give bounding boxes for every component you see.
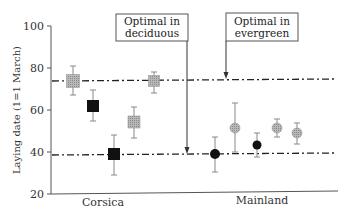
reference-line-evergreen <box>52 79 334 81</box>
series-mainland <box>210 103 302 172</box>
chart-canvas: 100 80 60 40 20 Laying date (1=1 March) … <box>0 0 348 220</box>
data-point-corsica-5 <box>149 72 160 93</box>
arrowhead-deciduous-icon <box>185 147 190 154</box>
y-axis: 100 80 60 40 20 Laying date (1=1 March) <box>11 20 51 201</box>
x-axis: Corsica Mainland <box>51 191 338 209</box>
y-tick-label-60: 60 <box>30 104 44 117</box>
series-corsica <box>67 66 160 175</box>
y-tick-label-40: 40 <box>30 146 44 159</box>
annotation-deciduous-line1: Optimal in <box>124 15 180 27</box>
reference-line-deciduous <box>52 153 334 155</box>
data-point-corsica-1 <box>67 66 80 95</box>
annotation-deciduous-line2: deciduous <box>125 27 179 39</box>
data-point-mainland-4 <box>272 119 282 137</box>
annotation-evergreen-line1: Optimal in <box>234 15 290 27</box>
y-axis-title: Laying date (1=1 March) <box>11 46 22 174</box>
data-point-mainland-5 <box>292 123 302 144</box>
y-tick-label-100: 100 <box>23 20 44 33</box>
y-tick-label-80: 80 <box>30 62 44 75</box>
annotation-evergreen-line2: evergreen <box>235 27 290 39</box>
data-point-corsica-3 <box>108 135 120 175</box>
data-point-corsica-4 <box>128 107 140 138</box>
data-point-mainland-1 <box>210 137 220 172</box>
y-tick-label-20: 20 <box>30 188 44 201</box>
x-category-mainland: Mainland <box>236 194 289 207</box>
data-point-mainland-2 <box>230 103 240 152</box>
arrowhead-evergreen-icon <box>224 72 229 79</box>
annotation-evergreen: Optimal in evergreen <box>224 13 299 79</box>
x-category-corsica: Corsica <box>82 196 125 209</box>
data-point-corsica-2 <box>87 90 99 121</box>
